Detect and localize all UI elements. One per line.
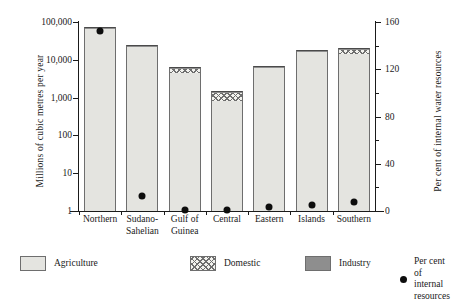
bar-segment-industry: [169, 67, 201, 69]
y-axis-right-minor-tick: [375, 187, 379, 188]
bar-segment-agriculture: [211, 101, 243, 211]
legend-label: Domestic: [224, 258, 260, 270]
x-axis-tick: [79, 211, 80, 215]
percent-marker: [224, 206, 231, 213]
y-axis-left-tick: [73, 98, 79, 99]
y-axis-right-tick: [375, 69, 381, 70]
bar-segment-industry: [126, 45, 158, 47]
y-axis-left-tick: [73, 135, 79, 136]
y-axis-left-tick-label: 1,000: [51, 93, 72, 103]
y-axis-right-tick: [375, 117, 381, 118]
bar-segment-agriculture: [84, 28, 116, 211]
bar-segment-agriculture: [338, 54, 370, 211]
x-axis-tick-label: Sudano- Sahelian: [121, 214, 163, 237]
percent-marker: [266, 204, 273, 211]
percent-marker: [350, 198, 357, 205]
bar-segment-agriculture: [253, 68, 285, 211]
x-axis-tick-label: Islands: [290, 214, 332, 226]
y-axis-left-tick: [73, 60, 79, 61]
bar-segment-industry: [296, 50, 328, 52]
y-axis-right-tick: [375, 164, 381, 165]
x-axis-tick: [333, 211, 334, 215]
x-axis-tick: [248, 211, 249, 215]
y-axis-left-tick: [73, 173, 79, 174]
percent-marker: [308, 202, 315, 209]
y-axis-right-tick: [375, 211, 381, 212]
x-axis-tick: [164, 211, 165, 215]
y-axis-right-minor-tick: [375, 46, 379, 47]
y-axis-left-tick: [73, 22, 79, 23]
percent-marker: [97, 28, 104, 35]
y-axis-right-tick-label: 160: [385, 17, 399, 27]
percent-marker: [181, 206, 188, 213]
bar-column[interactable]: [296, 22, 328, 211]
bar-segment-industry: [338, 48, 370, 50]
bar-column[interactable]: [126, 22, 158, 211]
legend-item[interactable]: Industry: [305, 256, 371, 271]
bar-segment-industry: [253, 66, 285, 68]
y-axis-right-minor-tick: [375, 93, 379, 94]
y-axis-left-tick-label: 100,000: [41, 17, 72, 27]
industry-swatch: [305, 256, 331, 271]
bar-column[interactable]: [84, 22, 116, 211]
y-axis-right-minor-tick: [375, 140, 379, 141]
x-axis-tick: [206, 211, 207, 215]
percent-dot-marker: [400, 276, 407, 283]
domestic-swatch: [190, 256, 216, 271]
x-axis-tick: [121, 211, 122, 215]
y-axis-right-tick-label: 0: [385, 206, 390, 216]
legend-label: Industry: [339, 258, 371, 270]
y-axis-left-tick-label: 1: [67, 206, 72, 216]
legend-item[interactable]: Agriculture: [20, 256, 98, 271]
legend-label: Per cent of internal resources: [414, 256, 450, 302]
bar-segment-industry: [211, 91, 243, 93]
bar-segment-domestic: [211, 92, 243, 101]
y-axis-left-tick-label: 100: [58, 130, 72, 140]
y-axis-right-tick-label: 120: [385, 64, 399, 74]
bar-column[interactable]: [253, 22, 285, 211]
bar-segment-agriculture: [296, 51, 328, 211]
x-axis-tick-label: Eastern: [248, 214, 290, 226]
bar-segment-agriculture: [126, 45, 158, 211]
y-axis-left-title: Millions of cubic metres per year: [35, 21, 45, 221]
x-axis-tick-label: Gulf of Guinea: [164, 214, 206, 237]
legend-item[interactable]: Domestic: [190, 256, 260, 271]
x-axis-tick-label: Northern: [79, 214, 121, 226]
y-axis-right-tick-label: 40: [385, 159, 395, 169]
bar-column[interactable]: [338, 22, 370, 211]
percent-marker: [139, 192, 146, 199]
chart-legend: AgricultureDomesticIndustryPer cent of i…: [20, 252, 440, 286]
y-axis-left-tick-label: 10,000: [46, 55, 72, 65]
plot-area: 1101001,00010,000100,000 04080120160: [79, 22, 375, 211]
y-axis-right-title: Per cent of internal water resources: [433, 21, 443, 221]
legend-item[interactable]: Per cent of internal resources: [400, 256, 450, 302]
x-axis-tick: [290, 211, 291, 215]
bar-column[interactable]: [211, 22, 243, 211]
y-axis-right-tick: [375, 22, 381, 23]
agriculture-swatch: [20, 256, 46, 271]
x-axis-tick-label: Southern: [333, 214, 375, 226]
y-axis-left-tick-label: 10: [63, 168, 73, 178]
x-axis-tick-label: Central: [206, 214, 248, 226]
legend-label: Agriculture: [54, 258, 98, 270]
bar-column[interactable]: [169, 22, 201, 211]
bar-segment-agriculture: [169, 73, 201, 211]
y-axis-right-tick-label: 80: [385, 112, 395, 122]
